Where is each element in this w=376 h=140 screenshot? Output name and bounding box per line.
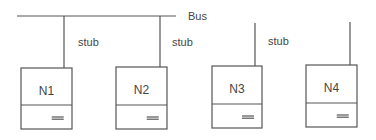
stub-label: stub	[268, 35, 289, 47]
node-label: N1	[39, 84, 55, 98]
node-n2: N2	[116, 16, 167, 129]
node-box	[21, 68, 72, 129]
node-n3: N3	[212, 23, 262, 128]
node-n4: N4	[306, 22, 357, 127]
node-box	[212, 66, 262, 128]
node-label: N4	[324, 81, 340, 95]
bus-topology-diagram: Bus stubstubstub N1N2N3N4	[0, 0, 376, 140]
node-n1: N1	[21, 16, 72, 129]
bus-label: Bus	[188, 10, 207, 22]
node-box	[306, 65, 357, 127]
node-label: N2	[134, 83, 150, 97]
node-box	[116, 67, 167, 129]
stub-label: stub	[172, 36, 193, 48]
stub-label: stub	[78, 36, 99, 48]
node-label: N3	[229, 82, 245, 96]
